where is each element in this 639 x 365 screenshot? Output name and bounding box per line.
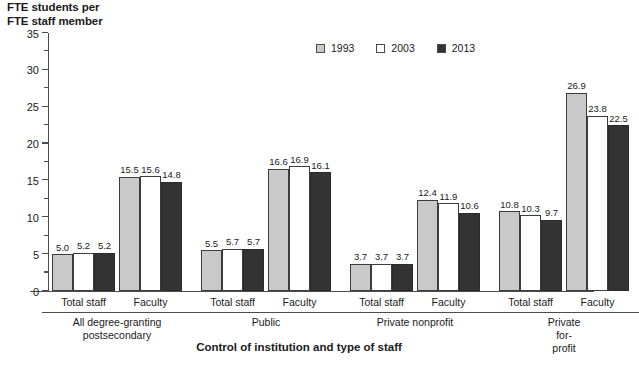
x-axis-title: Control of institution and type of staff — [196, 341, 402, 353]
value-label: 5.5 — [205, 238, 218, 249]
bar-series-container: 5.05.25.215.515.614.85.55.75.716.616.916… — [48, 33, 594, 291]
y-tick-label: 20 — [27, 138, 39, 150]
group-label-1: Public — [252, 316, 281, 329]
category-label-3: Faculty — [283, 296, 317, 308]
value-label: 15.6 — [141, 164, 160, 175]
bar-2013-0[interactable] — [94, 253, 115, 291]
group-label-3: Private for-profit — [547, 316, 582, 355]
value-label: 3.7 — [396, 251, 409, 262]
bar-1993-0[interactable] — [52, 254, 73, 291]
category-label-6: Total staff — [508, 296, 553, 308]
value-label: 26.9 — [567, 80, 586, 91]
bar-1993-1[interactable] — [119, 177, 140, 291]
bar-2013-6[interactable] — [541, 220, 562, 292]
value-label: 15.5 — [120, 164, 139, 175]
bar-2013-1[interactable] — [161, 182, 182, 291]
x-axis-line — [30, 291, 594, 292]
plot-area: 05101520253035 5.05.25.215.515.614.85.55… — [48, 33, 594, 291]
bar-1993-7[interactable] — [566, 93, 587, 291]
group-label-0: All degree-granting postsecondary — [73, 316, 162, 342]
bar-1993-5[interactable] — [417, 200, 438, 291]
value-label: 22.5 — [609, 113, 628, 124]
value-label: 11.9 — [440, 191, 458, 202]
bar-2003-5[interactable] — [438, 203, 459, 291]
value-label: 16.6 — [269, 156, 288, 167]
value-label: 5.2 — [77, 240, 90, 251]
y-tick-label: 15 — [27, 175, 39, 187]
category-label-1: Faculty — [134, 296, 168, 308]
value-label: 3.7 — [354, 251, 367, 262]
value-label: 9.7 — [545, 207, 558, 218]
bar-1993-3[interactable] — [268, 169, 289, 291]
bar-2013-7[interactable] — [608, 125, 629, 291]
y-tick-label: 35 — [27, 28, 39, 40]
bar-1993-2[interactable] — [201, 250, 222, 291]
bar-2003-7[interactable] — [587, 116, 608, 291]
group-underline-3 — [489, 312, 639, 313]
category-label-5: Faculty — [432, 296, 466, 308]
value-label: 16.1 — [311, 160, 330, 171]
value-label: 16.9 — [290, 154, 309, 165]
value-label: 5.0 — [56, 242, 69, 253]
y-axis-title: FTE students per FTE staff member — [7, 1, 103, 28]
value-label: 10.6 — [460, 200, 479, 211]
bar-2003-3[interactable] — [289, 166, 310, 291]
category-label-2: Total staff — [210, 296, 255, 308]
category-label-4: Total staff — [359, 296, 404, 308]
value-label: 10.3 — [521, 203, 540, 214]
value-label: 5.2 — [98, 240, 111, 251]
y-tick-label: 5 — [33, 249, 39, 261]
group-underline-2 — [340, 312, 490, 313]
y-tick-label: 0 — [33, 286, 39, 298]
bar-2003-6[interactable] — [520, 215, 541, 291]
bar-1993-4[interactable] — [350, 264, 371, 291]
bar-2013-5[interactable] — [459, 213, 480, 291]
value-label: 14.8 — [162, 169, 181, 180]
category-label-7: Faculty — [581, 296, 615, 308]
group-label-2: Private nonprofit — [377, 316, 453, 329]
bar-2013-4[interactable] — [392, 264, 413, 291]
category-label-0: Total staff — [61, 296, 106, 308]
value-label: 5.7 — [226, 236, 239, 247]
value-label: 23.8 — [588, 103, 607, 114]
value-label: 5.7 — [247, 236, 260, 247]
group-underline-0 — [42, 312, 192, 313]
bar-2003-0[interactable] — [73, 253, 94, 291]
bar-2013-2[interactable] — [243, 249, 264, 291]
bar-2013-3[interactable] — [310, 172, 331, 291]
value-label: 10.8 — [500, 199, 519, 210]
value-label: 3.7 — [375, 251, 388, 262]
group-underline-1 — [191, 312, 341, 313]
bar-2003-4[interactable] — [371, 264, 392, 291]
y-tick-label: 30 — [27, 64, 39, 76]
bar-2003-1[interactable] — [140, 176, 161, 291]
value-label: 12.4 — [418, 187, 437, 198]
y-tick-label: 10 — [27, 212, 39, 224]
bar-1993-6[interactable] — [499, 211, 520, 291]
bar-2003-2[interactable] — [222, 249, 243, 291]
y-tick-label: 25 — [27, 101, 39, 113]
